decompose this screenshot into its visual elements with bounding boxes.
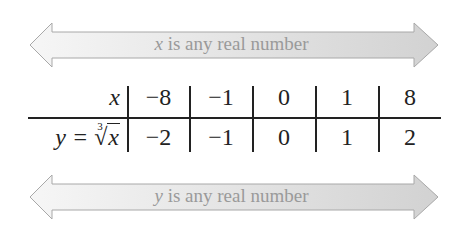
x-value: −1 — [190, 84, 252, 111]
cube-root-expression: 3√x — [94, 124, 120, 151]
y-value: 1 — [316, 124, 378, 151]
range-arrow: y is any real number — [0, 172, 463, 222]
domain-arrow: x is any real number — [0, 20, 463, 70]
x-value: 1 — [316, 84, 378, 111]
value-table: x −8 −1 0 1 8 y = 3√x −2 −1 0 1 2 — [0, 80, 463, 155]
range-variable: y — [154, 185, 162, 206]
y-value: −1 — [190, 124, 252, 151]
domain-label: x is any real number — [0, 33, 463, 55]
y-equals: y = — [55, 124, 88, 150]
radical-index: 3 — [97, 120, 103, 132]
x-value: 0 — [253, 84, 315, 111]
y-value: 2 — [379, 124, 441, 151]
range-label: y is any real number — [0, 185, 463, 207]
y-value: 0 — [253, 124, 315, 151]
domain-variable: x — [154, 33, 162, 54]
x-value: 8 — [379, 84, 441, 111]
domain-text: is any real number — [163, 33, 309, 54]
range-text: is any real number — [163, 185, 309, 206]
y-row-label: y = 3√x — [8, 124, 120, 151]
x-row-label: x — [60, 84, 120, 111]
radicand: x — [107, 123, 120, 150]
x-value: −8 — [128, 84, 189, 111]
y-value: −2 — [128, 124, 189, 151]
